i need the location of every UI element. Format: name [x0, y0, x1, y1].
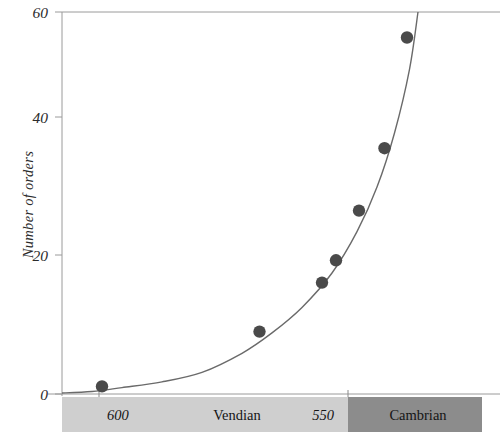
data-point: [96, 380, 108, 392]
timescale-band-label-vendian: Vendian: [213, 407, 261, 423]
data-point: [330, 254, 342, 266]
timescale-band-vendian: [62, 397, 348, 432]
chart-figure: Number of orders 0 20 40 60 600 Vendian: [0, 0, 503, 441]
fit-curve: [62, 12, 418, 393]
y-tick-label-20: 20: [33, 247, 49, 264]
timescale-tick-label-600: 600: [107, 407, 130, 423]
data-points: [96, 31, 413, 392]
timescale-strip: 600 Vendian 550 Cambrian: [62, 397, 482, 432]
data-point: [316, 276, 328, 288]
data-point: [378, 142, 390, 154]
timescale-tick-label-550: 550: [312, 407, 335, 423]
chart-canvas: 0 20 40 60 600 Vendian 550 Cambrian: [0, 0, 503, 441]
y-tick-label-40: 40: [33, 109, 49, 126]
data-point: [401, 31, 413, 43]
data-point: [353, 204, 365, 216]
timescale-band-label-cambrian: Cambrian: [389, 407, 447, 423]
y-tick-label-0: 0: [40, 386, 48, 403]
y-tick-label-60: 60: [33, 4, 49, 21]
axes: [48, 12, 500, 396]
data-point: [253, 325, 265, 337]
y-axis-ticks: 0 20 40 60: [33, 4, 63, 403]
